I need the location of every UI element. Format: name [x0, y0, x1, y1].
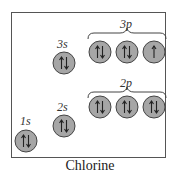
orbital-2p-2 [116, 96, 138, 118]
orbital-1s [15, 130, 37, 152]
label-3p: 3p [119, 17, 132, 31]
caption: Chlorine [66, 158, 115, 172]
orbital-2p-1 [89, 96, 111, 118]
orbital-3p-1 [89, 41, 111, 63]
orbital-2p-3 [143, 96, 165, 118]
brace-3p [88, 28, 166, 39]
label-1s: 1s [20, 114, 31, 128]
orbital-3s [53, 52, 75, 74]
label-2s: 2s [57, 100, 68, 114]
chlorine-orbital-diagram: 1s 2s 3s 2p 3p Chlorine [0, 0, 180, 172]
label-2p: 2p [120, 76, 132, 90]
label-3s: 3s [56, 37, 68, 51]
orbital-3p-3 [143, 41, 165, 63]
orbital-2s [53, 115, 75, 137]
orbital-3p-2 [116, 41, 138, 63]
